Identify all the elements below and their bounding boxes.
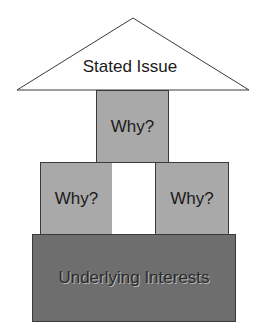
why-label-top: Why? xyxy=(111,117,154,137)
stated-issue-label: Stated Issue xyxy=(0,57,260,77)
why-box-top: Why? xyxy=(96,90,169,163)
interests-house-diagram: Stated Issue Why? Why? Why? Underlying I… xyxy=(0,0,260,335)
why-label-left: Why? xyxy=(55,189,98,209)
why-box-left: Why? xyxy=(40,162,113,235)
underlying-interests-label: Underlying Interests xyxy=(58,268,209,288)
why-box-right: Why? xyxy=(155,162,229,235)
underlying-interests-foundation: Underlying Interests xyxy=(32,234,236,322)
why-label-right: Why? xyxy=(170,189,213,209)
center-gap xyxy=(112,162,156,235)
